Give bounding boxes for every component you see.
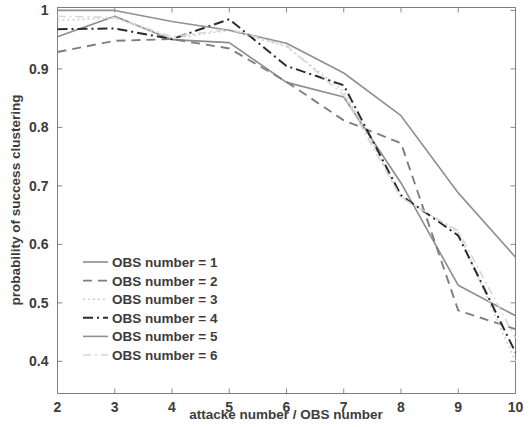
chart-background (0, 0, 531, 427)
legend-label-4: OBS number = 4 (112, 311, 218, 326)
legend-label-2: OBS number = 2 (112, 274, 217, 289)
y-tick-label: 0.4 (29, 353, 49, 369)
legend-label-3: OBS number = 3 (112, 292, 218, 307)
legend-label-6: OBS number = 6 (112, 348, 218, 363)
y-axis-title: probability of success clustering (8, 95, 23, 306)
y-tick-label: 0.9 (29, 61, 49, 77)
x-tick-label: 2 (54, 399, 62, 415)
y-tick-label: 0.5 (29, 295, 49, 311)
x-axis-title: attacke number / OBS number (189, 407, 383, 422)
x-tick-label: 9 (454, 399, 462, 415)
y-tick-label: 0.6 (29, 236, 49, 252)
y-tick-label: 0.8 (29, 119, 49, 135)
x-tick-label: 8 (397, 399, 405, 415)
legend-label-1: OBS number = 1 (112, 255, 218, 270)
y-tick-label: 1 (41, 2, 49, 18)
legend-label-5: OBS number = 5 (112, 329, 218, 344)
line-chart: 0.40.50.60.70.80.91 2345678910 probabili… (0, 0, 531, 427)
figure-container: 0.40.50.60.70.80.91 2345678910 probabili… (0, 0, 531, 427)
x-tick-label: 10 (508, 399, 524, 415)
x-tick-label: 4 (168, 399, 176, 415)
y-tick-label: 0.7 (29, 178, 49, 194)
x-tick-label: 3 (111, 399, 119, 415)
